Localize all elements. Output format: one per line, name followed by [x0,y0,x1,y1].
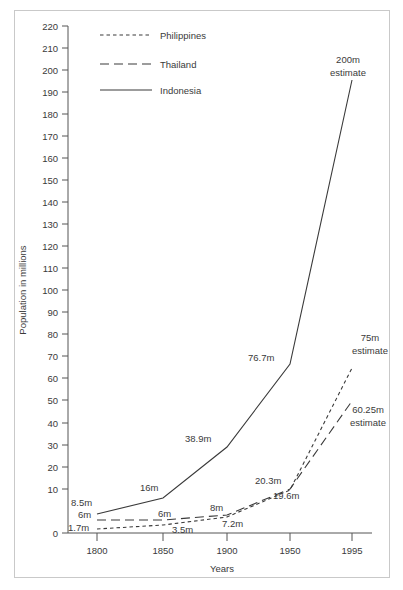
y-tick-label-210: 210 [42,43,58,54]
y-tick-label-180: 180 [42,109,58,120]
data-label-indonesia-1995-value: 200m [336,54,360,65]
y-tick-label-40: 40 [47,418,58,429]
y-tick-label-10: 10 [47,484,58,495]
chart-legend: Philippines Thailand Indonesia [100,30,206,96]
population-growth-line-chart: 220 210 200 190 180 170 160 150 140 130 … [0,0,403,590]
x-tick-label-1850: 1850 [152,545,173,556]
axes-group [68,26,372,533]
data-label-philippines-1800: 1.7m [68,522,89,533]
y-tick-label-70: 70 [47,351,58,362]
y-axis-ticks: 220 210 200 190 180 170 160 150 140 130 … [42,21,68,539]
y-tick-label-120: 120 [42,241,58,252]
data-label-thailand-1850: 6m [158,508,171,519]
data-label-thailand-1950: 20.3m [255,475,281,486]
y-tick-label-20: 20 [47,462,58,473]
y-tick-label-130: 130 [42,219,58,230]
y-tick-label-80: 80 [47,329,58,340]
y-tick-label-220: 220 [42,21,58,32]
x-axis-ticks: 1800 1850 1900 1950 1995 [86,533,362,556]
data-label-philippines-1995-estimate: estimate [352,345,388,356]
y-tick-label-60: 60 [47,373,58,384]
data-label-thailand-1995-value: 60.25m [352,404,384,415]
x-tick-label-1800: 1800 [86,545,107,556]
data-label-thailand-1800: 6m [78,509,91,520]
data-label-philippines-1950: 19.6m [273,490,299,501]
series-line-thailand [97,401,352,520]
legend-label-indonesia: Indonesia [160,85,202,96]
y-axis-title: Population in millions [17,245,28,334]
x-tick-label-1900: 1900 [216,545,237,556]
y-tick-label-190: 190 [42,87,58,98]
series-line-indonesia [97,80,352,514]
y-tick-label-50: 50 [47,395,58,406]
y-tick-label-110: 110 [43,263,58,274]
data-label-philippines-1995-value: 75m [361,332,380,343]
y-tick-label-200: 200 [42,65,58,76]
data-label-philippines-1850: 3.5m [172,524,193,535]
y-tick-label-100: 100 [42,285,58,296]
data-label-thailand-1995-estimate: estimate [350,417,386,428]
data-label-indonesia-1850: 16m [140,482,159,493]
data-label-indonesia-1800: 8.5m [71,497,92,508]
y-tick-label-90: 90 [47,307,58,318]
y-tick-label-170: 170 [42,131,58,142]
y-tick-label-150: 150 [42,175,58,186]
x-tick-label-1995: 1995 [341,545,362,556]
data-label-thailand-1900: 8m [210,502,223,513]
legend-item-philippines[interactable]: Philippines [100,30,206,41]
y-tick-label-140: 140 [42,197,58,208]
x-axis-title: Years [210,563,234,574]
data-label-indonesia-1995-estimate: estimate [330,67,366,78]
data-label-philippines-1900: 7.2m [222,518,243,529]
legend-label-philippines: Philippines [160,30,206,41]
legend-item-thailand[interactable]: Thailand [100,59,196,70]
legend-label-thailand: Thailand [160,59,196,70]
data-label-indonesia-1900: 38.9m [185,433,211,444]
y-tick-label-160: 160 [42,153,58,164]
data-label-indonesia-1950: 76.7m [248,352,274,363]
legend-item-indonesia[interactable]: Indonesia [100,85,202,96]
y-tick-label-30: 30 [47,440,58,451]
x-tick-label-1950: 1950 [279,545,300,556]
data-labels-group: 8.5m 6m 1.7m 16m 6m 3.5m 38.9m 8m 7.2m 7… [68,54,388,535]
y-tick-label-0: 0 [53,528,58,539]
